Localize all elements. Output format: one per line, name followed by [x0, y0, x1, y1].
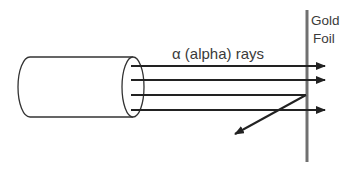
alpha-source-cylinder [18, 57, 144, 117]
foil-label-line2: Foil [313, 31, 335, 46]
cylinder-body [18, 57, 133, 117]
foil-label-line1: Gold [311, 13, 340, 28]
ray-label: α (alpha) rays [172, 45, 264, 62]
gold-foil-diagram: α (alpha) rays Gold Foil [0, 0, 357, 170]
alpha-rays [131, 66, 325, 134]
alpha-ray-3-deflected [235, 95, 306, 134]
